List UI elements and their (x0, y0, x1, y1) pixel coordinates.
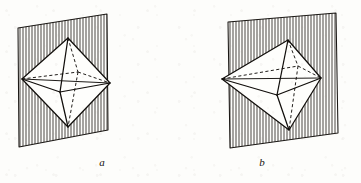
panel-b-label: b (259, 156, 265, 168)
figure-container: a (0, 0, 361, 183)
octahedron-mirror-plane-figure: a (0, 0, 361, 183)
panel-a: a (18, 0, 110, 183)
panel-a-label: a (99, 156, 105, 168)
panel-b: b (222, 0, 338, 183)
